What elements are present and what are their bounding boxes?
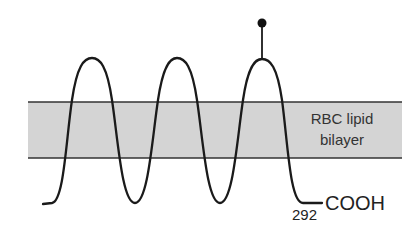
membrane-label-line1: RBC lipid <box>302 108 382 129</box>
membrane-label-line2: bilayer <box>302 129 382 150</box>
glycosylation-site-marker <box>258 19 267 60</box>
c-terminus-label: COOH <box>325 193 385 213</box>
residue-number-label: 292 <box>292 207 317 223</box>
membrane-label: RBC lipid bilayer <box>302 108 382 150</box>
